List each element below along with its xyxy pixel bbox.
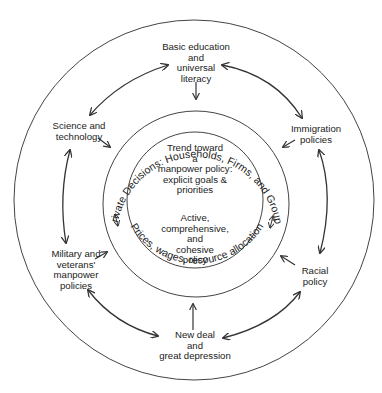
arrow-science-military [63,150,70,243]
node-military-veterans: Military and veterans' manpower policies [36,249,116,291]
node-basic-education: Basic education and universal literacy [146,42,246,84]
arrow-racial-inward [281,256,295,265]
inner-top-text: Trend toward a manpower policy: explicit… [140,143,250,196]
arrow-ring-right-small [270,216,273,228]
node-immigration-policies: Immigration policies [276,124,356,145]
arrow-immigration-racial [319,150,327,253]
node-science-technology: Science and technology [44,121,114,142]
inner-bottom-text: Active, comprehensive, and cohesive poli… [140,213,250,266]
node-racial-policy: Racial policy [290,266,340,287]
middle-circle [103,111,289,297]
node-new-deal: New deal and great depression [140,330,250,362]
